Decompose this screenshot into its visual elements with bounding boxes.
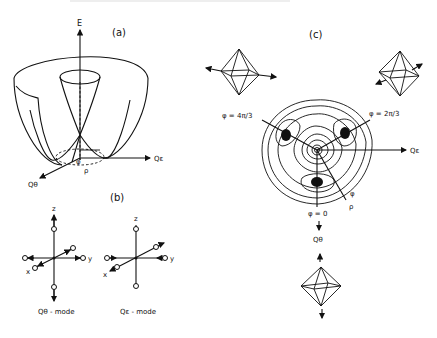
q-epsilon-mode-diagram: z y x Qε - mode: [103, 215, 174, 316]
q-epsilon-label-c: Qε: [410, 147, 420, 155]
panel-c-label: (c): [309, 29, 322, 40]
minimum-2pi3: [340, 127, 350, 139]
q-theta-label: Qθ: [28, 181, 38, 189]
panel-b-label: (b): [110, 192, 124, 203]
cut-face: [16, 86, 62, 165]
label-phi-2pi3: φ = 2π/3: [369, 110, 399, 118]
label-phi-0: φ = 0: [308, 210, 327, 218]
q-epsilon-label: Qε: [154, 155, 164, 163]
svg-text:y: y: [170, 255, 174, 263]
q-theta-label-c: Qθ: [313, 236, 323, 244]
label-rho-c: ρ: [349, 203, 354, 211]
svg-text:y: y: [88, 255, 92, 263]
energy-axis-label: E: [77, 19, 82, 28]
label-phi-4pi3: φ = 4π/3: [222, 112, 252, 120]
panel-b-modes: (b) z y x Qθ - mode: [23, 192, 175, 316]
panel-a-mexican-hat: (a) E Qε Qθ φ ρ: [14, 19, 164, 189]
svg-text:x: x: [26, 268, 30, 276]
svg-text:z: z: [52, 205, 56, 213]
outer-rim: [14, 57, 148, 78]
q-theta-mode-caption: Qθ - mode: [38, 308, 75, 316]
q-theta-mode-diagram: z y x Qθ - mode: [23, 205, 93, 316]
panel-a-label: (a): [112, 27, 126, 38]
panel-c-contours: (c): [206, 29, 422, 318]
octahedron-right: [376, 51, 422, 96]
rho-label: ρ: [84, 167, 89, 175]
octahedron-bottom: [301, 254, 341, 318]
trough-left: [30, 110, 80, 160]
octahedron-left: [206, 49, 276, 95]
svg-text:z: z: [134, 215, 138, 223]
q-epsilon-mode-caption: Qε - mode: [120, 308, 156, 316]
jahn-teller-figure: (a) E Qε Qθ φ ρ (b): [0, 0, 437, 338]
label-phi-c: φ: [350, 190, 355, 198]
svg-text:x: x: [103, 271, 107, 279]
phi-label: φ: [76, 158, 81, 166]
